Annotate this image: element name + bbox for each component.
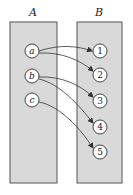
- node-3: 3: [93, 94, 107, 108]
- function-mapping-diagram: A B a b c 1 2 3 4 5: [0, 0, 133, 195]
- svg-text:4: 4: [97, 122, 103, 132]
- svg-text:a: a: [29, 46, 34, 56]
- node-b: b: [25, 69, 39, 83]
- set-a-label: A: [28, 6, 37, 19]
- svg-text:3: 3: [97, 96, 103, 106]
- node-2: 2: [93, 68, 107, 82]
- svg-text:5: 5: [97, 147, 103, 157]
- svg-text:b: b: [29, 71, 35, 81]
- svg-text:c: c: [29, 95, 34, 105]
- node-a: a: [25, 44, 39, 58]
- node-4: 4: [93, 120, 107, 134]
- svg-text:2: 2: [97, 70, 103, 80]
- node-5: 5: [93, 145, 107, 159]
- node-c: c: [25, 93, 39, 107]
- svg-text:1: 1: [97, 46, 103, 56]
- node-1: 1: [93, 44, 107, 58]
- set-b-label: B: [94, 6, 103, 19]
